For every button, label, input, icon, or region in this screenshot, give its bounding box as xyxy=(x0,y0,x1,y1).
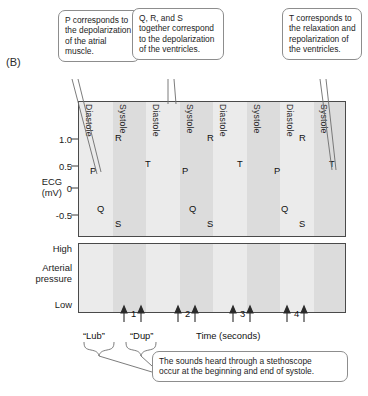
leader-t-2 xyxy=(326,79,336,170)
heart-sounds-brace xyxy=(84,342,156,372)
ecg-y-ticks xyxy=(71,139,78,215)
leader-qrs-2 xyxy=(174,79,176,104)
leader-sounds-2 xyxy=(141,356,152,366)
leader-t-1 xyxy=(320,79,332,170)
leader-p-1 xyxy=(72,79,97,174)
leader-p-2 xyxy=(78,79,101,172)
figure-panel-b: (B) 1.0 0.5 0 -0.5 ECG (mV) Dia xyxy=(0,0,368,396)
heart-sound-arrows xyxy=(121,306,307,322)
annotation-overlay xyxy=(0,0,368,396)
